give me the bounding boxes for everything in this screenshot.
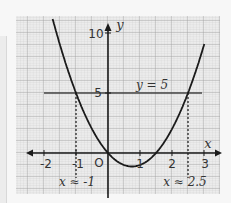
y-axis-label: y [115,17,124,32]
tick-label-1: 1 [136,157,144,171]
tick-label-neg1: -1 [72,157,84,171]
tick-label-3: 3 [201,157,209,171]
x-axis-label: x [204,136,212,151]
left-solution-label: x ≈ -1 [59,175,95,189]
tick-label-2: 2 [168,157,176,171]
origin-label: O [94,156,103,170]
parabola-chart: -2-1123510Oyxy = 5x ≈ -1x ≈ 2.5 [0,0,231,203]
tick-label-10: 10 [88,27,103,41]
right-solution-label: x ≈ 2.5 [163,175,207,189]
tick-label-neg2: -2 [40,157,52,171]
tick-label-5: 5 [94,86,102,100]
hline-label: y = 5 [135,78,168,92]
